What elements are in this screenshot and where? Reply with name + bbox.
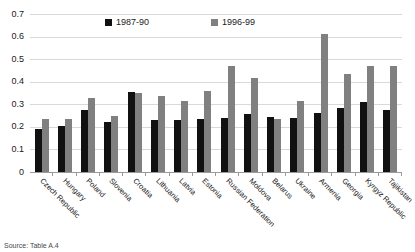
bar-group [379, 14, 402, 172]
x-tick [379, 172, 402, 176]
bar-group [30, 14, 53, 172]
bar-group [146, 14, 169, 172]
plot-area [30, 14, 402, 172]
x-label-cell: Russian Federation [216, 177, 239, 247]
x-label-cell: Poland [77, 177, 100, 247]
x-tick [239, 172, 262, 176]
bar [204, 91, 211, 172]
x-tick [170, 172, 193, 176]
bar [135, 93, 142, 172]
bar [314, 113, 321, 172]
x-label-cell: Kyrgyz Republic [356, 177, 379, 247]
bar [111, 116, 118, 172]
y-tick-label: 0.4 [11, 77, 24, 86]
x-tick [286, 172, 309, 176]
x-tick [356, 172, 379, 176]
bar [151, 120, 158, 172]
bar [390, 66, 397, 172]
bar-group [77, 14, 100, 172]
legend-label: 1987-90 [116, 18, 149, 27]
legend-entry: 1996-99 [211, 18, 255, 27]
bar [274, 119, 281, 172]
bar-group [100, 14, 123, 172]
x-label-cell: Belarus [263, 177, 286, 247]
legend-entry: 1987-90 [105, 18, 149, 27]
y-axis: 00.10.20.30.40.50.60.7 [0, 0, 28, 172]
x-tick [146, 172, 169, 176]
x-label-cell: Georgia [332, 177, 355, 247]
bar [297, 101, 304, 172]
x-label-cell: Croatia [123, 177, 146, 247]
x-label-cell: Slovenia [100, 177, 123, 247]
x-tick [53, 172, 76, 176]
x-label-cell: Latvia [170, 177, 193, 247]
legend-swatch [105, 19, 112, 26]
x-label-cell: Czech Republic [30, 177, 53, 247]
bar [228, 66, 235, 172]
x-tick [263, 172, 286, 176]
bar [197, 119, 204, 172]
x-tick [123, 172, 146, 176]
bar-group [216, 14, 239, 172]
bar [42, 119, 49, 172]
bar [290, 118, 297, 172]
bar [58, 126, 65, 172]
bar [367, 66, 374, 172]
bar [104, 122, 111, 172]
bar [251, 78, 258, 172]
x-tick [332, 172, 355, 176]
y-tick-label: 0.1 [11, 145, 24, 154]
bar-group [356, 14, 379, 172]
y-tick-label: 0.3 [11, 100, 24, 109]
y-tick-label: 0.5 [11, 55, 24, 64]
bar [344, 74, 351, 172]
bar [383, 110, 390, 172]
x-tick [77, 172, 100, 176]
x-tick [100, 172, 123, 176]
bar [337, 108, 344, 172]
x-tick [193, 172, 216, 176]
bar [221, 118, 228, 172]
y-tick-label: 0.2 [11, 122, 24, 131]
x-label-cell: Lithuania [146, 177, 169, 247]
bar [158, 96, 165, 172]
bar [81, 110, 88, 172]
bar [360, 102, 367, 172]
x-tick [309, 172, 332, 176]
y-tick-label: 0.6 [11, 32, 24, 41]
bar [128, 92, 135, 172]
bar-group [123, 14, 146, 172]
bars-layer [30, 14, 402, 172]
bar-group [239, 14, 262, 172]
bar [65, 119, 72, 172]
x-label-cell: Tajikistan [379, 177, 402, 247]
legend: 1987-901996-99 [105, 18, 255, 27]
source-note: Source: Table A.4 [4, 242, 59, 250]
bar [267, 117, 274, 172]
x-axis-labels: Czech RepublicHungaryPolandSloveniaCroat… [30, 177, 402, 247]
bar-group [170, 14, 193, 172]
y-tick-label: 0.7 [11, 10, 24, 19]
x-tick [30, 172, 53, 176]
bar-group [286, 14, 309, 172]
bar [174, 120, 181, 172]
x-tick [216, 172, 239, 176]
bar-group [332, 14, 355, 172]
bar-group [309, 14, 332, 172]
bar [88, 98, 95, 172]
x-label-cell: Moldova [239, 177, 262, 247]
legend-label: 1996-99 [222, 18, 255, 27]
bar-group [263, 14, 286, 172]
x-axis-category-label: Tajikistan [387, 177, 414, 204]
bar [321, 34, 328, 172]
bar-group [53, 14, 76, 172]
bar [35, 129, 42, 172]
y-tick-label: 0 [19, 168, 24, 177]
bar [244, 114, 251, 172]
bar-group [193, 14, 216, 172]
x-label-cell: Ukraine [286, 177, 309, 247]
legend-swatch [211, 19, 218, 26]
x-label-cell: Estonia [193, 177, 216, 247]
bar [181, 101, 188, 172]
x-label-cell: Hungary [53, 177, 76, 247]
